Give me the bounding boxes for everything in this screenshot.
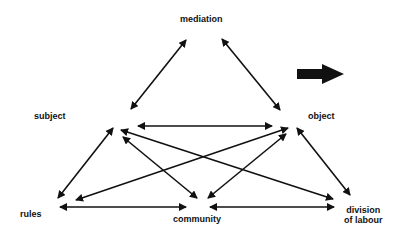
edge-mediation-object [222, 39, 280, 110]
edge-object-division [297, 128, 350, 195]
edge-subject-mediation [131, 40, 186, 109]
edge-object-community [208, 134, 286, 198]
node-object: object [308, 111, 335, 121]
node-mediation: mediation [180, 14, 223, 24]
node-subject: subject [34, 111, 66, 121]
node-rules: rules [20, 209, 42, 219]
node-community: community [173, 214, 221, 224]
node-division-line1: division [344, 205, 383, 215]
node-division-of-labour: division of labour [344, 205, 383, 225]
node-division-line2: of labour [344, 215, 383, 225]
outcome-block-arrow-icon [297, 64, 344, 84]
edge-subject-community [123, 137, 197, 198]
edge-object-rules [76, 128, 288, 200]
edge-subject-division [121, 130, 333, 199]
edge-subject-rules [58, 128, 113, 198]
